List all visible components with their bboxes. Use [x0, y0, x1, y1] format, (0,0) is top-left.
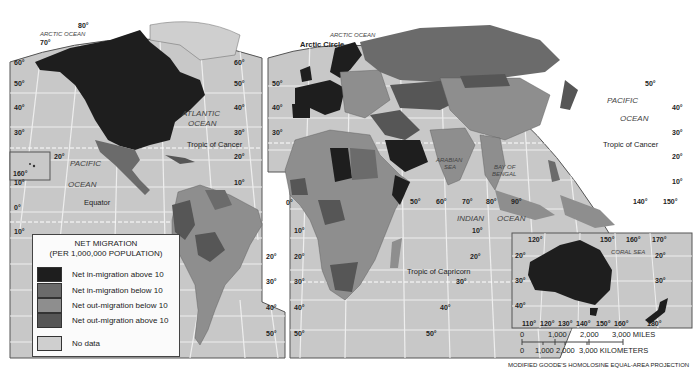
lon-label: 170°: [652, 236, 667, 243]
lon-label: 50°: [410, 198, 421, 205]
lon-label: 180°: [647, 320, 662, 327]
lat-label: 30°: [672, 129, 683, 136]
legend-title-line2: (PER 1,000,000 POPULATION): [33, 249, 179, 259]
lat-label: 30°: [272, 129, 283, 136]
lon-label: 130°: [558, 320, 573, 327]
lat-label: 10°: [14, 179, 25, 186]
lat-label: 60°: [14, 59, 25, 66]
legend-swatch: [37, 298, 62, 313]
tropic-cancer-right-label: Tropic of Cancer: [603, 140, 659, 149]
lat-label: 40°: [440, 304, 451, 311]
lat-label: 40°: [294, 304, 305, 311]
iberia: [292, 104, 310, 118]
lat-label: 10°: [234, 179, 245, 186]
japan: [560, 80, 578, 110]
lon-label: 60°: [436, 198, 447, 205]
lat-label: 50°: [426, 330, 437, 337]
lat-label: 40°: [515, 302, 526, 309]
legend-swatch: [37, 267, 62, 282]
lat-label: 20°: [234, 153, 245, 160]
legend-title: NET MIGRATION (PER 1,000,000 POPULATION): [33, 239, 179, 259]
equator-label: Equator: [84, 198, 111, 207]
map-legend: NET MIGRATION (PER 1,000,000 POPULATION)…: [32, 234, 180, 357]
scale-miles-label: 0: [520, 330, 524, 339]
lon-label: 140°: [633, 198, 648, 205]
hawaii-lon-label: 160°: [13, 170, 28, 177]
lat-label: 40°: [272, 104, 283, 111]
lat-label: 10°: [294, 227, 305, 234]
lat-label: 20°: [672, 153, 683, 160]
lat-label: 20°: [470, 253, 481, 260]
scale-km-label: 2,000: [556, 346, 575, 355]
arctic-ocean-label-right: ARCTIC OCEAN: [329, 32, 376, 38]
scale-km-label: 3,000 KILOMETERS: [579, 346, 648, 355]
atlantic-label-1: ATLANTIC: [181, 109, 220, 118]
lon-label: 160°: [614, 320, 629, 327]
lat-label: 30°: [515, 277, 526, 284]
lat-label: 30°: [294, 278, 305, 285]
lat-label: 70°: [40, 39, 51, 46]
lon-label: 120°: [540, 320, 555, 327]
lat-label: 30°: [456, 278, 467, 285]
lat-label: 20°: [54, 153, 65, 160]
arabian-label-1: ARABIAN: [435, 157, 463, 163]
lon-label: 0°: [286, 199, 293, 206]
lon-label: 70°: [462, 198, 473, 205]
pacific-right-label-1: PACIFIC: [607, 96, 638, 105]
lat-label: 40°: [266, 304, 277, 311]
lat-label: 60°: [234, 59, 245, 66]
lon-label: 140°: [576, 320, 591, 327]
indian-label-1: INDIAN: [457, 214, 484, 223]
lon-label: 150°: [663, 198, 678, 205]
legend-label: No data: [72, 339, 100, 348]
bengal-label-1: BAY OF: [494, 164, 516, 170]
lon-label: 80°: [486, 198, 497, 205]
pacific-left-label-2: OCEAN: [68, 180, 97, 189]
lat-label: 20°: [655, 252, 666, 259]
lat-label: 40°: [234, 104, 245, 111]
lat-label: 10°: [14, 228, 25, 235]
lat-label: 50°: [266, 330, 277, 337]
lat-label: 50°: [234, 80, 245, 87]
legend-label: Net in-migration above 10: [72, 270, 164, 279]
scale-miles-label: 3,000 MILES: [612, 330, 655, 339]
lat-label: 10°: [472, 227, 483, 234]
lon-label: 90°: [511, 198, 522, 205]
lat-label: 50°: [14, 80, 25, 87]
lat-label: 0°: [14, 204, 21, 211]
legend-swatch: [37, 336, 62, 351]
legend-swatch: [37, 313, 62, 328]
scale-miles-label: 1,000: [548, 330, 567, 339]
legend-label: Net in-migration below 10: [72, 286, 163, 295]
legend-item-no-data: No data: [37, 336, 100, 351]
legend-item-in-above: Net in-migration above 10: [37, 267, 164, 282]
indian-label-2: OCEAN: [497, 214, 526, 223]
lat-label: 40°: [14, 104, 25, 111]
lon-label: 160°: [626, 236, 641, 243]
legend-label: Net out-migration below 10: [72, 301, 168, 310]
lat-label: 20°: [515, 252, 526, 259]
lat-label: 20°: [294, 253, 305, 260]
pacific-left-label-1: PACIFIC: [70, 159, 101, 168]
lon-label: 150°: [600, 236, 615, 243]
lat-label: 20°: [266, 253, 277, 260]
lat-label: 30°: [14, 129, 25, 136]
arctic-circle-label: Arctic Circle: [300, 40, 344, 49]
coral-sea-label: CORAL SEA: [611, 249, 645, 255]
legend-item-out-above: Net out-migration above 10: [37, 313, 169, 328]
arctic-ocean-label-left: ARCTIC OCEAN: [39, 31, 86, 37]
russia: [360, 25, 560, 82]
mongolia: [460, 74, 510, 88]
atlantic-label-2: OCEAN: [188, 119, 217, 128]
lon-label: 110°: [522, 320, 536, 327]
scale-km-label: 0: [520, 346, 524, 355]
lat-label: 50°: [272, 80, 283, 87]
lat-label: 30°: [266, 278, 277, 285]
scale-km-label: 1,000: [535, 346, 554, 355]
legend-item-out-below: Net out-migration below 10: [37, 298, 168, 313]
legend-swatch: [37, 283, 62, 298]
legend-item-in-below: Net in-migration below 10: [37, 283, 163, 298]
lat-label: 10°: [672, 178, 683, 185]
lat-label: 50°: [645, 80, 656, 87]
lon-label: 120°: [528, 236, 543, 243]
